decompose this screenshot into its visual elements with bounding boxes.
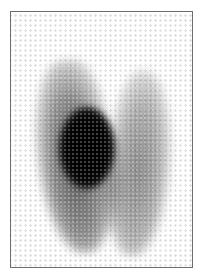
scan-image-frame [10, 11, 193, 268]
scan-noise-texture [11, 12, 192, 267]
